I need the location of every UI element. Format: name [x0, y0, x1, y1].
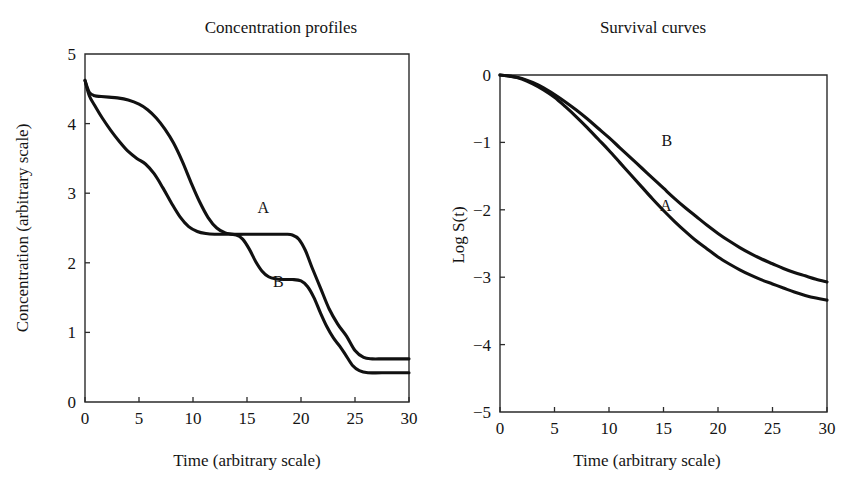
x-tick-label: 10 — [185, 409, 202, 428]
survival-curves-chart: Survival curves 051015202530 −5−4−3−2−10… — [431, 0, 862, 491]
x-tick-label: 0 — [81, 409, 90, 428]
x-axis-tick-labels: 051015202530 — [81, 409, 418, 428]
x-tick-label: 20 — [293, 409, 310, 428]
series-annotations: BA — [660, 132, 672, 214]
y-tick-label: 2 — [68, 254, 77, 273]
series-annotation-b: B — [273, 273, 284, 290]
y-axis-tick-labels: 012345 — [68, 45, 77, 412]
x-tick-label: 5 — [550, 419, 559, 438]
x-tick-label: 30 — [819, 419, 836, 438]
x-tick-label: 15 — [655, 419, 672, 438]
y-tick-label: 0 — [68, 393, 77, 412]
data-curve-b — [85, 80, 409, 372]
y-tick-label: 0 — [483, 66, 492, 85]
data-series-group — [500, 75, 827, 300]
series-annotation-a: A — [660, 197, 672, 214]
y-tick-label: −2 — [473, 201, 491, 220]
y-tick-label: 3 — [68, 184, 77, 203]
concentration-profiles-chart: Concentration profiles 051015202530 0123… — [0, 0, 431, 491]
x-axis-ticks — [85, 397, 409, 402]
x-tick-label: 25 — [764, 419, 781, 438]
x-tick-label: 15 — [239, 409, 256, 428]
y-axis-label: Log S(t) — [449, 206, 468, 263]
y-tick-label: −3 — [473, 268, 491, 287]
x-axis-ticks — [500, 407, 827, 412]
series-annotation-a: A — [257, 199, 269, 216]
figure-container: Concentration profiles 051015202530 0123… — [0, 0, 862, 491]
x-axis-label: Time (arbitrary scale) — [173, 451, 321, 470]
plot-frame — [500, 75, 827, 412]
chart-title: Concentration profiles — [205, 18, 358, 37]
plot-frame — [85, 54, 409, 402]
y-axis-ticks — [85, 124, 90, 333]
data-series-group — [85, 80, 409, 372]
x-tick-label: 0 — [496, 419, 505, 438]
chart-title: Survival curves — [600, 18, 706, 37]
x-tick-label: 20 — [710, 419, 727, 438]
x-axis-label: Time (arbitrary scale) — [573, 451, 721, 470]
x-tick-label: 30 — [401, 409, 418, 428]
y-tick-label: 5 — [68, 45, 77, 64]
data-curve-a — [85, 80, 409, 359]
data-curve-b — [500, 75, 827, 282]
y-axis-ticks — [500, 142, 505, 344]
y-tick-label: −1 — [473, 133, 491, 152]
series-annotation-b: B — [661, 132, 672, 149]
y-axis-tick-labels: −5−4−3−2−10 — [473, 66, 492, 422]
x-tick-label: 10 — [601, 419, 618, 438]
chart-panel-concentration-profiles: Concentration profiles 051015202530 0123… — [0, 0, 431, 491]
y-tick-label: 1 — [68, 323, 77, 342]
x-tick-label: 5 — [135, 409, 144, 428]
y-tick-label: −5 — [473, 403, 491, 422]
chart-panel-survival-curves: Survival curves 051015202530 −5−4−3−2−10… — [431, 0, 862, 491]
x-tick-label: 25 — [347, 409, 364, 428]
y-axis-label: Concentration (arbitrary scale) — [13, 124, 32, 333]
y-tick-label: 4 — [68, 115, 77, 134]
x-axis-tick-labels: 051015202530 — [496, 419, 836, 438]
y-tick-label: −4 — [473, 336, 492, 355]
